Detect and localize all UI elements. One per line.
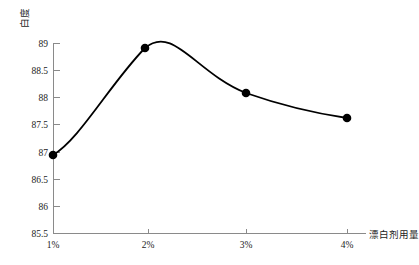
y-tick-label-88-5: 88.5: [31, 66, 48, 76]
data-point-3pct: [242, 89, 251, 98]
whiteness-vs-bleach-dosage-chart: 89 88.5 88 87.5 87 86.5 86 85.5 1% 2% 3%…: [0, 0, 419, 265]
x-tick-label-1pct: 1%: [47, 240, 60, 250]
y-tick-label-86: 86: [39, 202, 49, 212]
y-axis-tick-labels: 89 88.5 88 87.5 87 86.5 86 85.5: [31, 39, 48, 239]
data-point-1pct: [49, 151, 58, 160]
x-tick-label-4pct: 4%: [341, 240, 354, 250]
y-tick-label-87: 87: [39, 148, 49, 158]
y-tick-label-88: 88: [39, 93, 49, 103]
data-markers: [49, 44, 352, 160]
y-tick-label-87-5: 87.5: [31, 120, 48, 130]
y-axis-title: 白度: [19, 8, 30, 28]
y-axis-ticks: [54, 44, 60, 207]
data-line-whiteness: [53, 42, 347, 155]
y-tick-label-86-5: 86.5: [31, 175, 48, 185]
x-axis-title: 漂白剂用量: [369, 229, 419, 240]
x-tick-label-3pct: 3%: [240, 240, 253, 250]
data-point-2pct: [141, 44, 150, 53]
chart-canvas: 89 88.5 88 87.5 87 86.5 86 85.5 1% 2% 3%…: [0, 0, 419, 265]
y-tick-label-85-5: 85.5: [31, 229, 48, 239]
x-axis-ticks: [149, 229, 348, 234]
x-axis-tick-labels: 1% 2% 3% 4%: [47, 240, 354, 250]
y-tick-label-89: 89: [39, 39, 49, 49]
x-tick-label-2pct: 2%: [142, 240, 155, 250]
data-point-4pct: [343, 114, 352, 123]
